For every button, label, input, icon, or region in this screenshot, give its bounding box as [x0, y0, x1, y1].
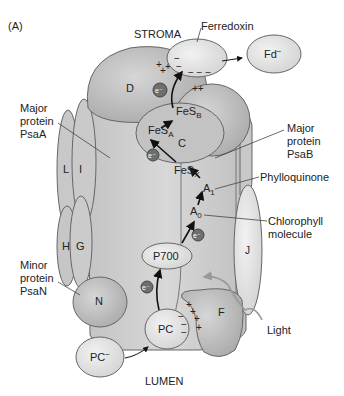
svg-text:−: −	[181, 327, 187, 338]
plastocyanin: PC − − −	[145, 309, 189, 349]
svg-text:F: F	[218, 306, 225, 318]
svg-text:Major: Major	[20, 102, 48, 114]
stroma-label: STROMA	[134, 28, 182, 40]
light-callout: Light	[267, 324, 291, 336]
svg-text:+: +	[196, 322, 202, 333]
svg-text:D: D	[126, 82, 134, 94]
svg-text:N: N	[95, 295, 103, 307]
svg-text:e⁻: e⁻	[142, 284, 150, 291]
svg-text:Phylloquinone: Phylloquinone	[260, 171, 329, 183]
svg-text:e⁻: e⁻	[193, 232, 201, 239]
svg-text:H: H	[62, 240, 70, 252]
svg-text:PsaB: PsaB	[287, 148, 313, 160]
svg-text:PsaA: PsaA	[20, 128, 47, 140]
svg-text:P700: P700	[153, 250, 179, 262]
svg-text:e⁻: e⁻	[148, 152, 156, 159]
ferredoxin: − − − − −	[167, 39, 227, 78]
svg-text:e⁻: e⁻	[155, 87, 163, 94]
svg-text:PsaN: PsaN	[20, 285, 47, 297]
svg-text:protein: protein	[287, 135, 321, 147]
svg-text:protein: protein	[20, 115, 54, 127]
plastocyanin-reduced: PC−	[76, 337, 124, 377]
p700: P700	[142, 243, 192, 269]
svg-text:Light: Light	[267, 324, 291, 336]
svg-text:Chlorophyll: Chlorophyll	[268, 215, 323, 227]
svg-text:Major: Major	[287, 122, 315, 134]
svg-text:molecule: molecule	[268, 228, 312, 240]
photosystem-i-diagram: L I H G K J D + + + E ++ C	[0, 0, 344, 396]
svg-text:protein: protein	[20, 272, 54, 284]
svg-text:++: ++	[192, 83, 204, 94]
svg-text:C: C	[178, 137, 186, 149]
svg-text:Minor: Minor	[20, 259, 48, 271]
svg-text:L: L	[63, 163, 69, 175]
subunit-N: N	[73, 277, 127, 327]
svg-text:I: I	[79, 163, 82, 175]
svg-text:PC: PC	[158, 323, 173, 335]
svg-text:J: J	[245, 245, 250, 256]
svg-text:G: G	[76, 240, 85, 252]
panel-label: (A)	[8, 20, 23, 32]
svg-text:−: −	[176, 61, 182, 72]
lumen-label: LUMEN	[145, 375, 184, 387]
svg-text:− − −: − − −	[188, 67, 211, 78]
ferredoxin-reduced: Fd−	[247, 35, 301, 73]
svg-text:Ferredoxin: Ferredoxin	[201, 20, 254, 32]
ferredoxin-callout: Ferredoxin	[197, 20, 254, 42]
subunit-G: G	[70, 196, 92, 288]
